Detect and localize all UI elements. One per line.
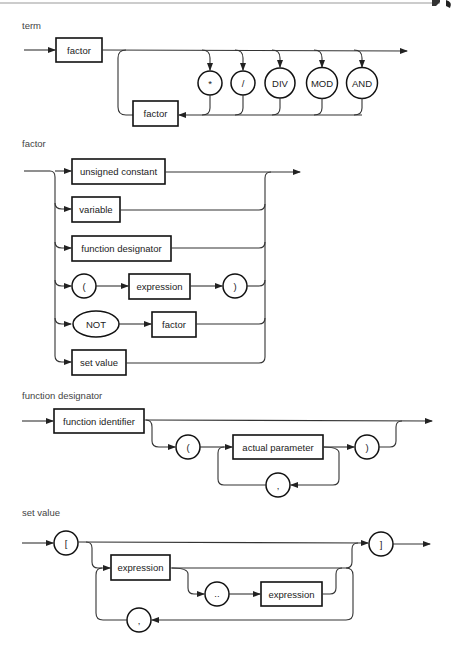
sv-lbracket-label: [ xyxy=(65,538,68,549)
factor-factor-label: factor xyxy=(162,319,186,330)
set-value-title: set value xyxy=(22,507,60,518)
factor-expression-label: expression xyxy=(137,281,183,292)
function-designator-title: function designator xyxy=(22,390,102,401)
sv-range-label: .. xyxy=(214,588,219,599)
page-corner-fragment xyxy=(432,0,440,6)
sv-rbracket-label: ] xyxy=(380,539,383,550)
term-loop-factor-label: factor xyxy=(144,108,168,119)
factor-variable-label: variable xyxy=(79,204,112,215)
set-value-diagram: set value [ ] expression .. expression , xyxy=(22,507,430,632)
factor-unsigned-constant-label: unsigned constant xyxy=(80,166,157,177)
sv-comma-label: , xyxy=(138,615,141,626)
factor-function-designator-label: function designator xyxy=(81,243,161,254)
syntax-diagram-page: term factor factor * / DIV MOD xyxy=(0,0,453,651)
factor-set-value-label: set value xyxy=(80,357,118,368)
term-factor-label: factor xyxy=(67,45,91,56)
function-designator-diagram: function designator function identifier … xyxy=(22,390,432,497)
page-number-fragment xyxy=(446,0,451,8)
term-title: term xyxy=(22,20,41,31)
term-op-multiply-label: * xyxy=(208,78,212,89)
term-diagram: term factor factor * / DIV MOD xyxy=(22,20,407,126)
sv-expression-label-2: expression xyxy=(269,589,315,600)
factor-rparen-label: ) xyxy=(233,281,236,292)
factor-diagram: factor unsigned constant variable functi… xyxy=(22,138,300,375)
term-op-mod-label: MOD xyxy=(311,78,333,89)
sv-expression-label-1: expression xyxy=(118,562,164,573)
fd-function-identifier-label: function identifier xyxy=(63,416,135,427)
term-op-divide-label: / xyxy=(242,78,245,89)
fd-comma-label: , xyxy=(277,480,280,491)
fd-actual-parameter-label: actual parameter xyxy=(242,442,313,453)
factor-title: factor xyxy=(22,138,46,149)
term-op-div-label: DIV xyxy=(272,78,289,89)
fd-rparen-label: ) xyxy=(365,442,368,453)
term-op-and-label: AND xyxy=(352,78,372,89)
factor-not-label: NOT xyxy=(86,319,106,330)
